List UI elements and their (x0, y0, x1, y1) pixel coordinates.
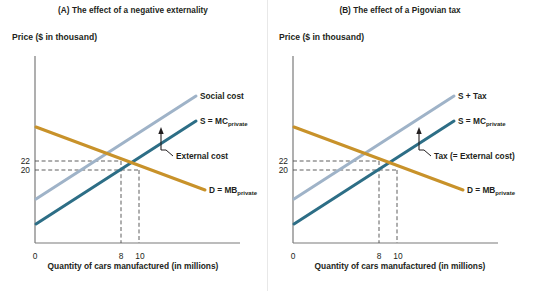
panel-a-label-supply-private: S = MCprivate (200, 116, 248, 127)
panel-b-x-axis-label: Quantity of cars manufactured (in millio… (267, 261, 533, 271)
panel-b-origin-label: 0 (291, 251, 296, 261)
panel-b-xtick-8: 8 (377, 251, 382, 261)
panel-a-ytick-20: 20 (21, 165, 31, 175)
panel-a-xtick-8: 8 (119, 251, 124, 261)
panel-b-ytick-20: 20 (279, 165, 289, 175)
panel-b-plot: S + Tax S = MCprivate D = MBprivate Tax … (267, 0, 533, 291)
panel-b-label-supply-private: S = MCprivate (458, 116, 506, 127)
panel-a-annotation-external-cost: External cost (176, 151, 228, 161)
panel-b-label-supply-plus-tax: S + Tax (458, 91, 487, 101)
panel-a-origin-label: 0 (33, 251, 38, 261)
panel-a-label-demand-private: D = MBprivate (209, 185, 258, 196)
panel-a-xtick-10: 10 (135, 251, 145, 261)
panel-a-label-social-cost: Social cost (200, 91, 244, 101)
panel-a-negative-externality: (A) The effect of a negative externality… (0, 0, 266, 291)
panel-b-annotation-tax: Tax (= External cost) (434, 151, 515, 161)
panel-b-label-demand-private: D = MBprivate (467, 185, 516, 196)
panel-b-curve-supply-plus-tax (294, 96, 454, 199)
figure-container: (A) The effect of a negative externality… (0, 0, 533, 291)
panel-a-curve-social-cost (36, 96, 196, 199)
panel-a-x-axis-label: Quantity of cars manufactured (in millio… (0, 261, 266, 271)
panel-b-xtick-10: 10 (393, 251, 403, 261)
panel-b-pigovian-tax: (B) The effect of a Pigovian tax Price (… (267, 0, 533, 291)
panel-a-plot: Social cost S = MCprivate D = MBprivate … (0, 0, 266, 291)
